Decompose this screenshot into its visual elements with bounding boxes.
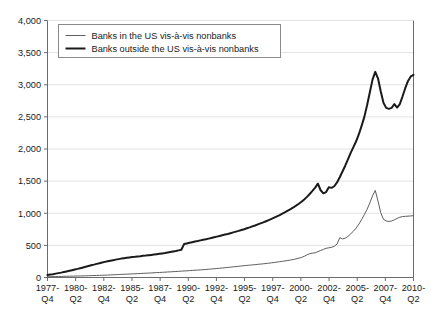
y-tick-label: 2,000 xyxy=(18,144,41,154)
x-tick-label-quarter: Q4 xyxy=(154,294,166,304)
x-tick-label-quarter: Q2 xyxy=(295,294,307,304)
x-tick-label-year: 1995- xyxy=(233,283,257,293)
x-tick-label-year: 2007- xyxy=(374,283,398,293)
x-tick-label-quarter: Q2 xyxy=(70,294,82,304)
x-tick-label-quarter: Q4 xyxy=(41,294,53,304)
x-tick-label-year: 2002- xyxy=(317,283,341,293)
x-tick-label-quarter: Q2 xyxy=(351,294,363,304)
x-tick-label-quarter: Q4 xyxy=(267,294,279,304)
x-tick-label-year: 2010- xyxy=(402,283,426,293)
x-tick-label-year: 1985- xyxy=(120,283,144,293)
legend-label: Banks in the US vis-à-vis nonbanks xyxy=(92,31,237,41)
x-tick-label-year: 1982- xyxy=(92,283,116,293)
chart-container: 05001,0001,5002,0002,5003,0003,5004,000 … xyxy=(0,0,435,316)
x-tick-label-quarter: Q4 xyxy=(323,294,335,304)
x-tick-label-year: 1997- xyxy=(261,283,285,293)
y-tick-label: 3,000 xyxy=(18,80,41,90)
y-tick-label: 4,000 xyxy=(18,16,41,26)
y-tick-label: 2,500 xyxy=(18,112,41,122)
x-tick-label-year: 1990- xyxy=(177,283,201,293)
x-tick-label-quarter: Q4 xyxy=(379,294,391,304)
x-tick-label-quarter: Q2 xyxy=(238,294,250,304)
y-tick-label: 0 xyxy=(36,273,41,283)
x-tick-label-quarter: Q2 xyxy=(126,294,138,304)
y-tick-label: 3,500 xyxy=(18,48,41,58)
y-tick-label: 500 xyxy=(26,241,41,251)
x-tick-label-quarter: Q4 xyxy=(98,294,110,304)
y-tick-label: 1,500 xyxy=(18,176,41,186)
y-tick-label: 1,000 xyxy=(18,209,41,219)
x-tick-label-quarter: Q2 xyxy=(182,294,194,304)
x-tick-label-year: 2005- xyxy=(345,283,369,293)
x-tick-label-year: 1992- xyxy=(205,283,229,293)
x-tick-label-year: 1980- xyxy=(64,283,88,293)
x-tick-label-quarter: Q2 xyxy=(407,294,419,304)
line-chart: 05001,0001,5002,0002,5003,0003,5004,000 … xyxy=(0,0,435,316)
x-tick-label-year: 2000- xyxy=(289,283,313,293)
x-tick-label-quarter: Q4 xyxy=(210,294,222,304)
legend-label: Banks outside the US vis-à-vis nonbanks xyxy=(92,44,259,54)
x-tick-label-year: 1987- xyxy=(148,283,172,293)
x-tick-label-year: 1977- xyxy=(36,283,60,293)
chart-legend: Banks in the US vis-à-vis nonbanksBanks … xyxy=(59,25,281,58)
